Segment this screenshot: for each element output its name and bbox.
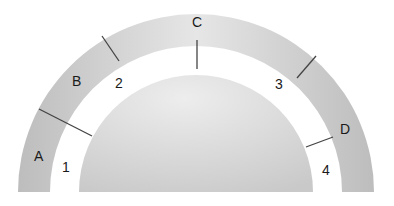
semicircle-diagram: A B C D 1 2 3 4: [0, 0, 394, 206]
label-b: B: [72, 73, 81, 89]
label-c: C: [192, 14, 202, 30]
label-1: 1: [62, 159, 70, 175]
divider-line-d: [306, 137, 333, 147]
inner-dome: [79, 75, 313, 192]
label-2: 2: [115, 75, 123, 91]
label-d: D: [340, 121, 350, 137]
label-a: A: [34, 148, 44, 164]
label-4: 4: [322, 162, 330, 178]
label-3: 3: [275, 76, 283, 92]
